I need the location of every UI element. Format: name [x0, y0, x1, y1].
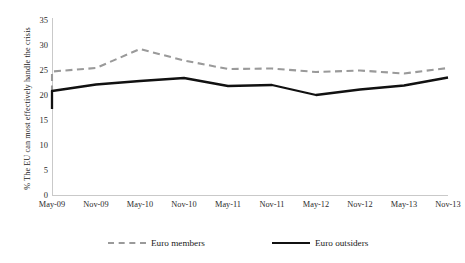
legend-item-euro-outsiders[interactable]: Euro outsiders: [272, 233, 368, 253]
series-line-euro-outsiders: [52, 78, 448, 110]
solid-line-icon: [272, 238, 310, 248]
legend-label-euro-outsiders: Euro outsiders: [315, 238, 368, 248]
legend-item-euro-members[interactable]: Euro members: [108, 233, 205, 253]
legend-label-euro-members: Euro members: [151, 238, 205, 248]
legend: Euro members Euro outsiders: [0, 233, 453, 259]
dashed-line-icon: [108, 238, 146, 248]
